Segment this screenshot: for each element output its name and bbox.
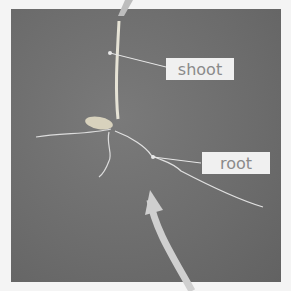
figure-frame: shoot root [0,0,291,291]
root-label: root [202,152,270,174]
seedling-photo [11,9,281,282]
shoot-label: shoot [166,58,234,80]
seedling-drawing [11,9,281,282]
